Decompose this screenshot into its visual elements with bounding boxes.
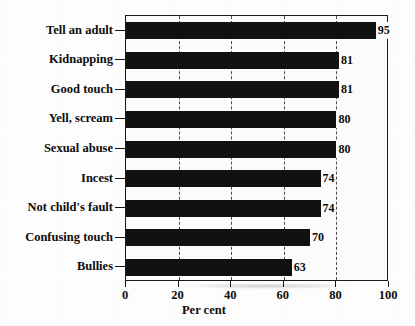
category-tick (115, 118, 125, 119)
x-axis-title: Per cent (182, 303, 226, 318)
category-tick (115, 178, 125, 179)
x-axis: 020406080100 (125, 281, 388, 321)
bar-value-label: 74 (321, 170, 335, 187)
x-tick-40 (230, 281, 231, 287)
bar-value-label: 80 (336, 111, 350, 128)
bar-value-label: 74 (321, 200, 335, 217)
bar-value-label: 81 (339, 52, 353, 69)
category-label: Incest (3, 170, 113, 185)
category-label: Tell an adult (3, 22, 113, 37)
bar (126, 200, 321, 217)
category-tick (115, 59, 125, 60)
bar (126, 170, 321, 187)
x-tick-label: 60 (277, 288, 290, 303)
x-tick-0 (125, 281, 126, 287)
x-tick-60 (283, 281, 284, 287)
category-tick (115, 89, 125, 90)
bar-value-label: 81 (339, 81, 353, 98)
category-tick (115, 266, 125, 267)
category-label: Bullies (3, 259, 113, 274)
bar (126, 81, 339, 98)
category-tick (115, 237, 125, 238)
bar-value-label: 63 (292, 259, 306, 276)
bar-value-label: 95 (376, 22, 390, 39)
bar-group: 958181808074747063 (126, 16, 387, 280)
x-tick-label: 20 (171, 288, 184, 303)
category-label-group: Tell an adultKidnappingGood touchYell, s… (0, 15, 113, 281)
x-tick-80 (335, 281, 336, 287)
bar (126, 229, 310, 246)
x-tick-label: 100 (379, 288, 398, 303)
bar (126, 259, 292, 276)
bar-value-label: 70 (310, 229, 324, 246)
category-label: Confusing touch (3, 229, 113, 244)
category-tick (115, 30, 125, 31)
plot-area: 958181808074747063 (125, 15, 388, 281)
category-tick (115, 207, 125, 208)
bar-chart-figure: Tell an adultKidnappingGood touchYell, s… (0, 0, 415, 326)
category-tick (115, 148, 125, 149)
x-tick-label: 80 (329, 288, 342, 303)
bar (126, 52, 339, 69)
bar (126, 111, 336, 128)
category-label: Yell, scream (3, 111, 113, 126)
x-tick-label: 40 (224, 288, 237, 303)
category-label: Not child's fault (3, 200, 113, 215)
category-label: Kidnapping (3, 52, 113, 67)
x-tick-100 (388, 281, 389, 287)
x-tick-label: 0 (122, 288, 128, 303)
bar-value-label: 80 (336, 141, 350, 158)
bar (126, 22, 376, 39)
category-label: Good touch (3, 81, 113, 96)
bar (126, 141, 336, 158)
category-label: Sexual abuse (3, 141, 113, 156)
x-tick-20 (178, 281, 179, 287)
